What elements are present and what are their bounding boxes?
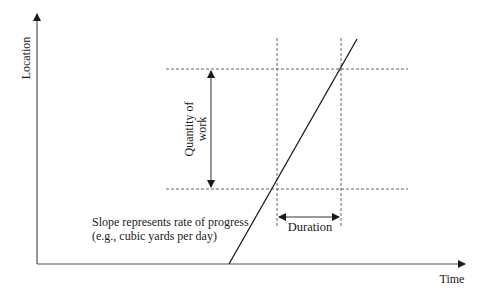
x-axis-label: Time <box>440 272 465 286</box>
y-axis-label: Location <box>19 37 33 80</box>
duration-label: Duration <box>288 220 333 234</box>
quantity-label-line2: work <box>195 117 209 142</box>
quantity-label-line1: Quantity of <box>182 102 196 157</box>
linear-schedule-diagram: Location Time Quantity of work Duration … <box>0 0 485 293</box>
slope-label-line2: (e.g., cubic yards per day) <box>92 229 217 243</box>
slope-label-line1: Slope represents rate of progress <box>92 215 249 229</box>
